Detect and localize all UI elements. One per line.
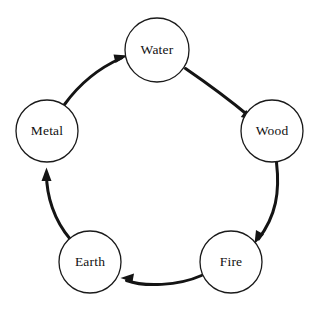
- metal-node-label: Metal: [31, 123, 64, 138]
- node-earth[interactable]: Earth: [59, 231, 121, 293]
- cycle-canvas: Water Wood Fire Earth Metal: [0, 0, 321, 309]
- water-to-wood-arc: [186, 69, 250, 117]
- water-node-label: Water: [141, 42, 174, 57]
- fire-to-earth-arc: [127, 276, 202, 285]
- edge-metal-to-water: [65, 55, 129, 105]
- earth-node-label: Earth: [75, 254, 105, 269]
- node-wood[interactable]: Wood: [241, 100, 303, 162]
- fire-node-label: Fire: [220, 254, 243, 269]
- metal-to-water-arc: [65, 58, 122, 105]
- earth-to-metal-arc: [47, 174, 71, 240]
- node-fire[interactable]: Fire: [200, 231, 262, 293]
- five-element-cycle-diagram: Water Wood Fire Earth Metal: [0, 0, 321, 309]
- node-water[interactable]: Water: [125, 18, 189, 82]
- edge-wood-to-fire: [255, 163, 278, 245]
- edge-fire-to-earth: [121, 274, 202, 285]
- wood-to-fire-arc: [259, 163, 278, 240]
- edge-water-to-wood: [186, 69, 255, 121]
- wood-node-label: Wood: [256, 123, 289, 138]
- node-metal[interactable]: Metal: [16, 100, 78, 162]
- earth-to-metal-arrowhead: [42, 168, 52, 182]
- edge-earth-to-metal: [42, 168, 71, 240]
